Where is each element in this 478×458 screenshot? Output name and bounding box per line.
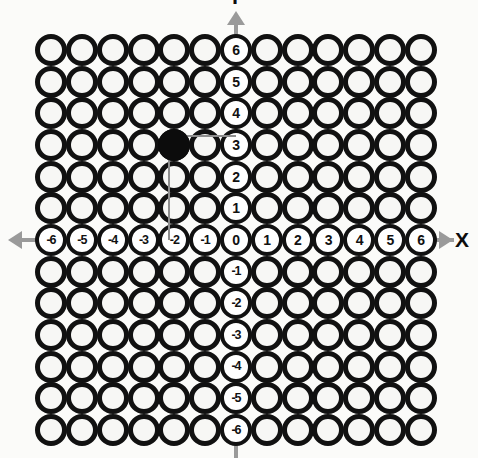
grid-circle-3--4[interactable] (312, 351, 344, 383)
grid-circle--5-1[interactable] (66, 192, 98, 224)
grid-circle--1-2[interactable] (189, 161, 221, 193)
grid-circle--3-6[interactable] (128, 34, 160, 66)
grid-circle--3--4[interactable] (128, 351, 160, 383)
grid-circle-6-2[interactable] (405, 161, 437, 193)
grid-circle-1--2[interactable] (251, 287, 283, 319)
grid-circle--6-3[interactable] (35, 129, 67, 161)
grid-circle-5--3[interactable] (374, 319, 406, 351)
grid-circle--1--2[interactable] (189, 287, 221, 319)
grid-circle-4-4[interactable] (343, 97, 375, 129)
grid-circle-5-2[interactable] (374, 161, 406, 193)
axis-tick-circle--5-0[interactable]: -5 (66, 224, 98, 256)
grid-circle-1--4[interactable] (251, 351, 283, 383)
grid-circle-3-1[interactable] (312, 192, 344, 224)
grid-circle--6--4[interactable] (35, 351, 67, 383)
grid-circle-4-1[interactable] (343, 192, 375, 224)
grid-circle--3-1[interactable] (128, 192, 160, 224)
grid-circle--1--5[interactable] (189, 382, 221, 414)
grid-circle-5-6[interactable] (374, 34, 406, 66)
grid-circle--4-2[interactable] (97, 161, 129, 193)
grid-circle-2--6[interactable] (282, 414, 314, 446)
axis-tick-circle-3-0[interactable]: 3 (312, 224, 344, 256)
axis-tick-circle-0-4[interactable]: 4 (220, 97, 252, 129)
grid-circle-2-1[interactable] (282, 192, 314, 224)
grid-circle-4--1[interactable] (343, 256, 375, 288)
grid-circle-3--2[interactable] (312, 287, 344, 319)
grid-circle--5--1[interactable] (66, 256, 98, 288)
grid-circle-5-5[interactable] (374, 66, 406, 98)
grid-circle--4-5[interactable] (97, 66, 129, 98)
axis-tick-circle-0--1[interactable]: -1 (220, 256, 252, 288)
grid-circle--5-4[interactable] (66, 97, 98, 129)
grid-circle--1--4[interactable] (189, 351, 221, 383)
grid-circle-4--4[interactable] (343, 351, 375, 383)
grid-circle-1-6[interactable] (251, 34, 283, 66)
grid-circle--3--6[interactable] (128, 414, 160, 446)
grid-circle-6--3[interactable] (405, 319, 437, 351)
grid-circle--4--5[interactable] (97, 382, 129, 414)
axis-tick-circle--4-0[interactable]: -4 (97, 224, 129, 256)
axis-tick-circle-0--4[interactable]: -4 (220, 351, 252, 383)
grid-circle--6--5[interactable] (35, 382, 67, 414)
grid-circle--4--2[interactable] (97, 287, 129, 319)
axis-tick-circle-0-5[interactable]: 5 (220, 66, 252, 98)
grid-circle--3--2[interactable] (128, 287, 160, 319)
grid-circle-3-6[interactable] (312, 34, 344, 66)
plotted-point[interactable] (158, 129, 190, 161)
grid-circle--5--4[interactable] (66, 351, 98, 383)
grid-circle--3--1[interactable] (128, 256, 160, 288)
grid-circle-4--6[interactable] (343, 414, 375, 446)
grid-circle--3--3[interactable] (128, 319, 160, 351)
grid-circle-1--1[interactable] (251, 256, 283, 288)
axis-tick-circle-2-0[interactable]: 2 (282, 224, 314, 256)
grid-circle--4--3[interactable] (97, 319, 129, 351)
grid-circle-2--4[interactable] (282, 351, 314, 383)
grid-circle--2--1[interactable] (158, 256, 190, 288)
grid-circle-2-4[interactable] (282, 97, 314, 129)
grid-circle-1-4[interactable] (251, 97, 283, 129)
grid-circle-2-3[interactable] (282, 129, 314, 161)
grid-circle-1--6[interactable] (251, 414, 283, 446)
grid-circle--3--5[interactable] (128, 382, 160, 414)
grid-circle-1-5[interactable] (251, 66, 283, 98)
grid-circle-6--5[interactable] (405, 382, 437, 414)
grid-circle-2--3[interactable] (282, 319, 314, 351)
grid-circle--5-2[interactable] (66, 161, 98, 193)
grid-circle--2-2[interactable] (158, 161, 190, 193)
grid-circle--4-4[interactable] (97, 97, 129, 129)
grid-circle-6-6[interactable] (405, 34, 437, 66)
grid-circle--6--3[interactable] (35, 319, 67, 351)
grid-circle-6--2[interactable] (405, 287, 437, 319)
grid-circle-5--4[interactable] (374, 351, 406, 383)
grid-circle--3-3[interactable] (128, 129, 160, 161)
axis-tick-circle--1-0[interactable]: -1 (189, 224, 221, 256)
grid-circle-6-5[interactable] (405, 66, 437, 98)
grid-circle--5--3[interactable] (66, 319, 98, 351)
grid-circle-2-6[interactable] (282, 34, 314, 66)
axis-tick-circle-5-0[interactable]: 5 (374, 224, 406, 256)
grid-circle--6-4[interactable] (35, 97, 67, 129)
grid-circle--1--6[interactable] (189, 414, 221, 446)
axis-tick-circle-0--3[interactable]: -3 (220, 319, 252, 351)
grid-circle-3-3[interactable] (312, 129, 344, 161)
grid-circle-3-4[interactable] (312, 97, 344, 129)
grid-circle-2-5[interactable] (282, 66, 314, 98)
grid-circle--5-5[interactable] (66, 66, 98, 98)
grid-circle--1--3[interactable] (189, 319, 221, 351)
axis-tick-circle--6-0[interactable]: -6 (35, 224, 67, 256)
grid-circle-6-3[interactable] (405, 129, 437, 161)
grid-circle--2-6[interactable] (158, 34, 190, 66)
grid-circle-6--6[interactable] (405, 414, 437, 446)
grid-circle-5-1[interactable] (374, 192, 406, 224)
grid-circle--2--5[interactable] (158, 382, 190, 414)
grid-circle--6-2[interactable] (35, 161, 67, 193)
grid-circle--2--4[interactable] (158, 351, 190, 383)
grid-circle-2--1[interactable] (282, 256, 314, 288)
grid-circle-6-1[interactable] (405, 192, 437, 224)
grid-circle-5--6[interactable] (374, 414, 406, 446)
grid-circle--1--1[interactable] (189, 256, 221, 288)
axis-tick-circle--3-0[interactable]: -3 (128, 224, 160, 256)
grid-circle-2--2[interactable] (282, 287, 314, 319)
grid-circle--6-6[interactable] (35, 34, 67, 66)
grid-circle--6-1[interactable] (35, 192, 67, 224)
